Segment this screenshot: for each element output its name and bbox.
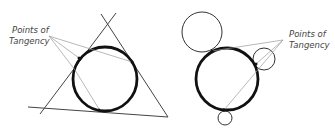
outer-circle-bottom — [218, 111, 232, 125]
inscribed-circle — [73, 47, 137, 111]
triangle-side-bottom — [28, 107, 168, 117]
tangency-point — [131, 61, 134, 64]
figure-right-tangent-circles: Points of Tangency — [182, 12, 331, 125]
label-points-of: Points of — [12, 25, 51, 35]
tangency-point — [255, 63, 258, 66]
label-tangency: Tangency — [9, 36, 51, 46]
pointer-lines-right — [212, 40, 283, 110]
label-tangency: Tangency — [289, 40, 331, 50]
tangency-point — [223, 109, 226, 112]
outer-circle-top-left — [182, 12, 222, 52]
tangency-diagram: Points of Tangency Points of Tangency — [0, 0, 335, 131]
tangency-point — [211, 50, 214, 53]
tangency-point — [78, 57, 81, 60]
tangency-point — [98, 109, 101, 112]
figure-left-inscribed-circle: Points of Tangency — [9, 13, 168, 117]
label-points-of: Points of — [289, 29, 328, 39]
main-circle — [196, 48, 258, 110]
